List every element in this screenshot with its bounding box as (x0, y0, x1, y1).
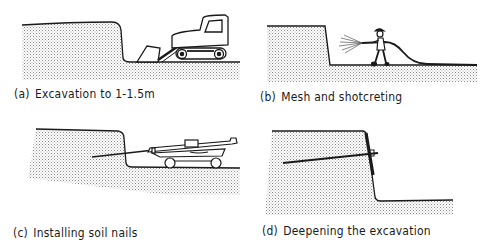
panel-d-deepening: (d)Deepening the excavation (245, 123, 490, 246)
panel-b-caption-text: Mesh and shotcreting (281, 89, 402, 104)
soil-mass (267, 26, 477, 82)
panel-b-shotcreting: (b)Mesh and shotcreting (245, 0, 490, 123)
excavator-icon (137, 15, 228, 62)
excavation-illustration (0, 0, 245, 123)
panel-a-tag: (a) (14, 86, 30, 101)
worker-icon (371, 29, 389, 66)
shotcreting-illustration (245, 0, 490, 123)
soil-nailing-sequence-figure: (a)Excavation to 1-1.5m (0, 0, 490, 246)
panel-c-soil-nails: (c)Installing soil nails (0, 123, 245, 246)
panel-d-tag: (d) (262, 223, 278, 238)
panel-a-excavation: (a)Excavation to 1-1.5m (0, 0, 245, 123)
panel-d-caption: (d)Deepening the excavation (262, 223, 431, 238)
panel-a-caption: (a)Excavation to 1-1.5m (14, 86, 155, 101)
soil-mass (265, 131, 453, 215)
panel-c-caption-text: Installing soil nails (33, 225, 137, 240)
panel-c-tag: (c) (13, 225, 28, 240)
panel-d-caption-text: Deepening the excavation (283, 223, 431, 238)
soil-mass (28, 129, 240, 195)
panel-b-caption: (b)Mesh and shotcreting (260, 89, 402, 104)
drill-rig-icon (148, 138, 237, 168)
panel-a-caption-text: Excavation to 1-1.5m (35, 86, 155, 101)
shotcrete-spray-icon (339, 35, 362, 53)
panel-c-caption: (c)Installing soil nails (13, 225, 138, 240)
panel-b-tag: (b) (260, 89, 276, 104)
